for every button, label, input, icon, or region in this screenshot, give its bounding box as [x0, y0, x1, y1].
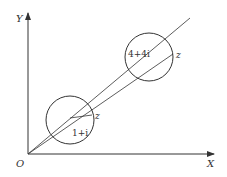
complex-plane-diagram: Y X O 1+i z 4+4i z [0, 0, 227, 177]
z-label-lower: z [94, 111, 100, 121]
y-axis-label: Y [16, 13, 24, 24]
diagonal-line [28, 18, 190, 154]
center-label-lower: 1+i [72, 128, 88, 138]
origin-label: O [16, 158, 24, 169]
line-to-z [28, 54, 173, 154]
z-label-upper: z [175, 50, 181, 60]
center-label-upper: 4+4i [128, 49, 150, 59]
x-axis-label: X [206, 158, 215, 169]
